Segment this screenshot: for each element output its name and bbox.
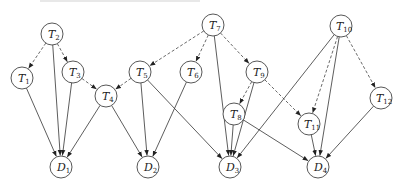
edge-t5-d2: [141, 83, 147, 156]
edge-t1-d1: [26, 88, 56, 156]
node-t10: T10: [330, 15, 352, 37]
edges-layer: [26, 31, 375, 161]
edge-t10-t11: [313, 36, 338, 113]
edge-t7-d3: [214, 36, 228, 156]
node-t9: T9: [246, 61, 268, 83]
edge-t5-t4: [115, 78, 131, 89]
node-t5: T5: [129, 61, 151, 83]
edge-t8-d3: [231, 125, 233, 156]
edge-t5-d3: [148, 80, 223, 159]
node-d3: D3: [219, 156, 241, 178]
edge-t10-d4: [320, 37, 339, 156]
node-t1: T1: [11, 67, 33, 89]
edge-t9-t11: [265, 80, 301, 116]
edge-t4-d2: [112, 105, 143, 157]
node-t11: T11: [298, 113, 320, 135]
edge-t7-t6: [196, 35, 208, 62]
edge-t6-d2: [153, 82, 187, 157]
nodes-layer: T2T1T3T4T7T5T6T9T8T10T11T12D1D2D3D4: [11, 14, 392, 178]
node-t3: T3: [62, 61, 84, 83]
edge-t9-t8: [240, 82, 252, 104]
node-d4: D4: [307, 156, 329, 178]
edge-t10-d3: [237, 35, 334, 158]
node-d1: D1: [50, 156, 72, 178]
edge-t2-t3: [57, 44, 67, 62]
node-t12: T12: [370, 87, 392, 109]
node-t8: T8: [223, 103, 245, 125]
node-t4: T4: [95, 85, 117, 107]
edge-t3-t4: [82, 78, 97, 89]
edge-t3-d1: [62, 83, 71, 156]
node-t7: T7: [202, 14, 224, 36]
node-t6: T6: [180, 61, 202, 83]
edge-t4-d1: [67, 105, 100, 157]
node-t2: T2: [41, 23, 63, 45]
edge-t2-t1: [28, 43, 45, 68]
edge-t12-d4: [326, 106, 374, 158]
edge-t10-t12: [346, 36, 375, 88]
edge-t7-t9: [221, 33, 250, 64]
node-d2: D2: [137, 156, 159, 178]
task-dependency-diagram: T2T1T3T4T7T5T6T9T8T10T11T12D1D2D3D4: [0, 0, 401, 187]
edge-t2-d1: [53, 45, 60, 156]
edge-t11-d4: [311, 135, 315, 156]
edge-t7-t5: [150, 31, 204, 66]
